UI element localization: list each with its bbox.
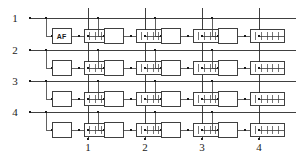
cell-element-input-node: [244, 35, 247, 38]
cell-group: AF: [45, 17, 285, 138]
cell-r2-c2: [97, 49, 171, 76]
cell-column-tap: [258, 35, 261, 38]
cell-row-tap: [97, 49, 100, 52]
row-label-3: 3: [12, 75, 18, 87]
cell-row-tap: [45, 49, 48, 52]
cell-row-tap: [45, 80, 48, 83]
cell-row-tap: [211, 49, 214, 52]
cell-branch: [46, 50, 52, 68]
row-terminal-1: [29, 17, 32, 20]
cell-column-tap: [258, 67, 261, 70]
cell-r3-c2: [97, 80, 171, 107]
cell-element-input-node: [187, 35, 190, 38]
cell-switch-box: [104, 92, 123, 107]
cell-column-tap: [258, 98, 261, 101]
cell-column-tap: [201, 67, 204, 70]
cell-element-input-node: [78, 98, 81, 101]
cell-r4-c3: [154, 111, 228, 138]
column-label-group: 1234: [85, 141, 262, 153]
cell-row-tap: [45, 17, 48, 20]
cell-switch-box: [104, 29, 123, 44]
cell-column-tap: [87, 98, 90, 101]
cell-switch-box: [52, 123, 71, 138]
cell-label-af: AF: [57, 33, 67, 40]
cell-element-input-node: [78, 67, 81, 70]
cell-element-input-node: [244, 67, 247, 70]
cell-switch-box: [161, 123, 180, 138]
row-label-1: 1: [12, 12, 18, 24]
cell-element-input-node: [78, 35, 81, 38]
cell-row-tap: [154, 80, 157, 83]
cell-row-tap: [154, 49, 157, 52]
cell-element-input-node: [130, 35, 133, 38]
cell-row-tap: [154, 111, 157, 114]
cell-row-tap: [97, 111, 100, 114]
cell-element-input-node: [130, 129, 133, 132]
cell-column-tap: [87, 35, 90, 38]
cell-column-tap: [87, 67, 90, 70]
cell-element-input-node: [187, 98, 190, 101]
cell-column-tap: [201, 35, 204, 38]
cell-row-tap: [211, 80, 214, 83]
cell-switch-box: [218, 61, 237, 76]
row-label-2: 2: [12, 44, 18, 56]
cell-column-tap: [144, 67, 147, 70]
cell-row-tap: [97, 80, 100, 83]
cell-branch: [46, 112, 52, 130]
cell-element-input-node: [244, 129, 247, 132]
row-label-group: 1234: [12, 12, 18, 118]
column-label-1: 1: [85, 141, 91, 153]
cell-switch-box: [218, 92, 237, 107]
cell-switch-box: [218, 123, 237, 138]
cell-switch-box: [104, 61, 123, 76]
cell-switch-box: [161, 29, 180, 44]
cell-r1-c3: [154, 17, 228, 44]
cell-column-tap: [258, 129, 261, 132]
cell-row-tap: [45, 111, 48, 114]
cell-element-input-node: [130, 67, 133, 70]
row-label-4: 4: [12, 106, 18, 118]
cell-branch: [46, 18, 52, 36]
cell-row-tap: [211, 111, 214, 114]
cell-column-tap: [201, 98, 204, 101]
cell-element-input-node: [78, 129, 81, 132]
cell-switch-box: [161, 61, 180, 76]
cell-column-tap: [144, 35, 147, 38]
column-label-4: 4: [256, 141, 262, 153]
column-label-2: 2: [142, 141, 148, 153]
cell-column-tap: [201, 129, 204, 132]
cell-element-input-node: [130, 98, 133, 101]
cell-row-tap: [97, 17, 100, 20]
cell-switch-box: [218, 29, 237, 44]
cell-row-tap: [211, 17, 214, 20]
cell-r3-c3: [154, 80, 228, 107]
cell-r2-c3: [154, 49, 228, 76]
cell-branch: [46, 81, 52, 99]
cell-column-tap: [87, 129, 90, 132]
cell-r4-c2: [97, 111, 171, 138]
cell-element-input-node: [244, 98, 247, 101]
schematic-canvas: AF 1234 1234: [0, 0, 304, 163]
schematic-figure: AF 1234 1234: [0, 0, 304, 163]
cell-element-input-node: [187, 67, 190, 70]
cell-column-tap: [144, 98, 147, 101]
cell-switch-box: [104, 123, 123, 138]
cell-r3-c4: [211, 80, 285, 107]
row-terminal-2: [29, 49, 32, 52]
cell-r2-c4: [211, 49, 285, 76]
cell-switch-box: [52, 61, 71, 76]
row-terminal-3: [29, 80, 32, 83]
cell-r4-c4: [211, 111, 285, 138]
cell-row-tap: [154, 17, 157, 20]
row-terminal-4: [29, 111, 32, 114]
cell-column-tap: [144, 129, 147, 132]
column-label-3: 3: [199, 141, 205, 153]
cell-switch-box: [52, 92, 71, 107]
cell-switch-box: [161, 92, 180, 107]
cell-element-input-node: [187, 129, 190, 132]
cell-r1-c4: [211, 17, 285, 44]
cell-r1-c2: [97, 17, 171, 44]
